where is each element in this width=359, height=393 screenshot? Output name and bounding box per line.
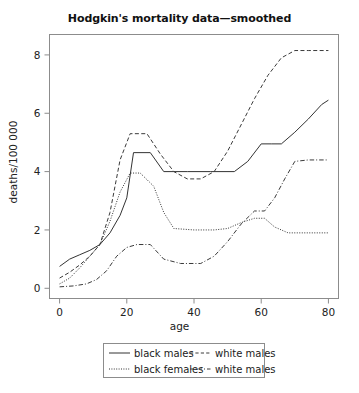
plot-frame [50,35,339,299]
y-tick-label: 0 [34,282,41,294]
series-line-0 [60,100,329,266]
legend-row: black males white males [104,345,266,361]
legend-label: black males [134,348,194,359]
y-tick-label: 2 [34,224,41,236]
y-axis-label: deaths/100 000 [7,102,19,222]
x-tick-label: 40 [187,306,200,318]
legend-entry-white-males-dashed: white males [190,345,266,361]
y-tick-label: 4 [34,165,41,177]
x-tick-label: 20 [120,306,133,318]
legend-entry-black-males: black males [104,345,190,361]
x-tick-label: 80 [322,306,335,318]
legend-label: white males [215,364,276,375]
y-tick-label: 8 [34,49,41,61]
legend-label: white males [215,348,276,359]
x-axis-label: age [0,320,359,332]
legend-entry-black-females: black females [104,361,190,377]
chart-legend: black males white males black females [103,343,265,378]
x-tick-label: 60 [255,306,268,318]
legend-line-dotted-icon [109,364,130,374]
plot-area: 02468020406080 [0,0,359,330]
legend-row: black females white males [104,361,266,377]
series-line-2 [60,173,329,284]
x-tick-label: 0 [56,306,63,318]
legend-entry-white-males-dashdot: white males [190,361,266,377]
chart-figure: Hodgkin's mortality data—smoothed 024680… [0,0,359,393]
y-tick-label: 6 [34,107,41,119]
series-line-1 [60,51,329,279]
legend-line-solid-icon [109,348,130,358]
legend-line-dashed-icon [190,348,211,358]
legend-line-dashdot-icon [190,364,211,374]
